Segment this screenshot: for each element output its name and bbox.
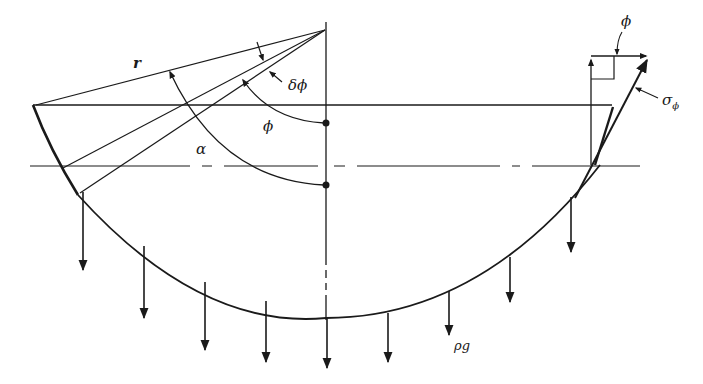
sigma-phi-arrow	[575, 60, 647, 198]
shell-arc	[78, 165, 600, 319]
shell-left-edge	[33, 105, 78, 195]
phi-origin-dot	[323, 120, 330, 127]
label-alpha: α	[196, 140, 206, 158]
label-sigma-phi: σϕ	[662, 91, 679, 111]
shell-diagram: r δϕ ϕ α ϕ σϕ ρg	[0, 0, 703, 384]
alpha-origin-dot	[323, 182, 330, 189]
phi-arc	[243, 80, 324, 123]
label-phi: ϕ	[263, 117, 273, 135]
radius-line-1	[63, 30, 325, 168]
radius-line-2	[80, 30, 325, 193]
label-delta-phi: δϕ	[288, 76, 307, 94]
label-phi-top: ϕ	[621, 12, 631, 30]
label-rho-g: ρg	[453, 338, 470, 353]
hydrostatic-load-arrows	[83, 192, 571, 368]
label-r: r	[133, 54, 142, 72]
